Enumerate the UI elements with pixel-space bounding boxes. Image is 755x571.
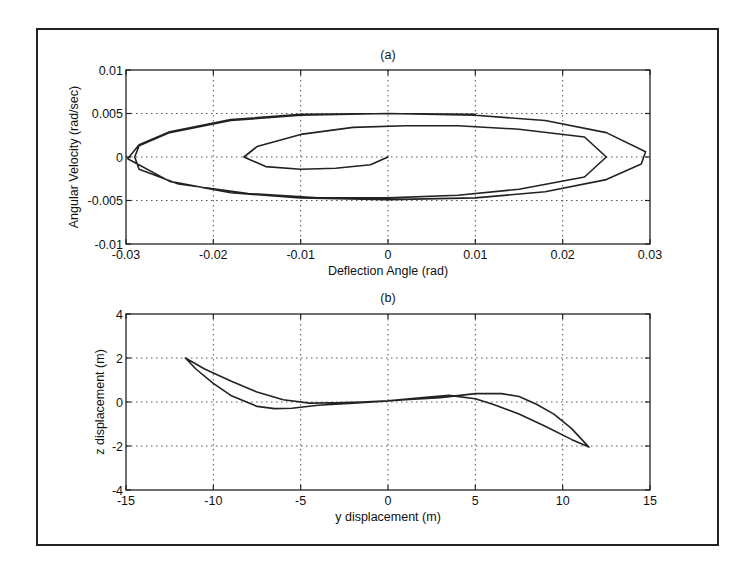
trajectory-line [185,358,589,447]
x-tick-label: 0.03 [638,248,662,262]
panel-b-y-ticks: 420-2-4 [112,308,650,498]
y-tick-label: -2 [112,440,123,454]
y-tick-label: 0 [116,396,123,410]
x-tick-label: -0.01 [286,248,315,262]
x-tick-label: -0.02 [199,248,228,262]
panel-a-y-label: Angular Velocity (rad/sec) [67,86,81,228]
y-tick-label: -4 [112,484,123,498]
y-tick-label: 2 [116,352,123,366]
x-tick-label: 15 [643,494,657,508]
panel-b-trajectory [185,358,589,447]
y-tick-label: -0.005 [88,194,123,208]
x-tick-label: 5 [472,494,479,508]
figure-canvas: (a) -0.03-0.02-0.0100.010.020.03 0.010.0… [0,0,755,571]
x-tick-label: 0.02 [550,248,574,262]
panel-a-x-label: Deflection Angle (rad) [328,264,448,278]
y-tick-label: 4 [116,308,123,322]
x-tick-label: -5 [295,494,306,508]
y-tick-label: 0 [116,151,123,165]
y-tick-label: -0.01 [95,238,124,252]
panel-b-x-label: y displacement (m) [335,510,441,524]
panel-b: (b) -15-10-5051015 420-2-4 y displacemen… [93,291,657,524]
x-tick-label: 0 [385,248,392,262]
x-tick-label: 0.01 [463,248,487,262]
panel-b-grid [126,314,650,490]
y-tick-label: 0.01 [99,64,123,78]
x-tick-label: -10 [204,494,222,508]
panel-b-x-ticks: -15-10-5051015 [117,314,657,508]
panel-a: (a) -0.03-0.02-0.0100.010.020.03 0.010.0… [67,48,662,278]
panel-a-title: (a) [380,48,395,62]
x-tick-label: 10 [556,494,570,508]
x-tick-label: 0 [385,494,392,508]
y-tick-label: 0.005 [92,107,123,121]
panel-a-x-ticks: -0.03-0.02-0.0100.010.020.03 [112,70,662,262]
panel-b-y-label: z displacement (m) [93,349,107,455]
panel-b-title: (b) [380,291,395,305]
